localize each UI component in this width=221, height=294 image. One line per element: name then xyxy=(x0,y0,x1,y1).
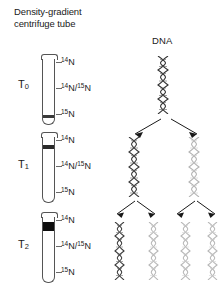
time-label-t1: T1 xyxy=(18,158,29,171)
dna-helix-t2-3 xyxy=(178,222,193,280)
time-label-t2: T2 xyxy=(18,238,29,251)
label-light-t2: 14N xyxy=(61,214,75,225)
replication-arrow-t1-b xyxy=(136,200,160,220)
n-glyph: N xyxy=(68,57,75,67)
diagram-canvas: Density-gradient centrifuge tube DNA T0 … xyxy=(0,0,221,294)
tube-body xyxy=(42,59,55,119)
dna-helix-t0-1 xyxy=(155,56,171,114)
n-slash: N/ xyxy=(68,241,77,251)
label-hybrid-t0: 14N/15N xyxy=(61,82,91,93)
time-label-t0: T0 xyxy=(18,78,29,91)
n-slash: N/ xyxy=(68,83,77,93)
dna-helix-t2-1 xyxy=(112,222,127,280)
label-hybrid-t2: 14N/15N xyxy=(61,240,91,251)
label-light-t1: 14N xyxy=(61,134,75,145)
dna-band-light xyxy=(43,222,54,231)
tube-foot xyxy=(42,196,55,203)
tube-foot xyxy=(42,118,55,125)
replication-arrow-t1-c xyxy=(172,200,196,220)
dna-helix-t1-1 xyxy=(126,137,142,197)
label-hybrid-t1: 14N/15N xyxy=(61,160,91,171)
tube-foot xyxy=(42,276,55,283)
time-label-t2-sub: 2 xyxy=(25,242,29,251)
label-heavy-t2: 15N xyxy=(61,266,75,277)
dna-band-hybrid xyxy=(43,145,54,149)
dna-heading: DNA xyxy=(152,35,173,46)
tube-t1 xyxy=(41,132,58,204)
replication-arrow-t1-a xyxy=(112,200,136,220)
n-glyph: N xyxy=(84,83,91,93)
n-slash: N/ xyxy=(68,161,77,171)
n-glyph: N xyxy=(68,135,75,145)
n-glyph: N xyxy=(68,187,75,197)
time-label-t1-sub: 1 xyxy=(25,162,29,171)
centrifuge-tube-heading: Density-gradient centrifuge tube xyxy=(14,6,82,29)
time-label-t0-text: T xyxy=(18,78,25,90)
n-glyph: N xyxy=(68,215,75,225)
n-glyph: N xyxy=(84,241,91,251)
label-heavy-t1: 15N xyxy=(61,186,75,197)
dna-band-heavy xyxy=(43,115,54,118)
label-light-t0: 14N xyxy=(61,56,75,67)
replication-arrow-t1-d xyxy=(196,200,220,220)
n-glyph: N xyxy=(84,161,91,171)
tube-t2 xyxy=(41,212,58,284)
dna-helix-t1-2 xyxy=(186,137,202,197)
time-label-t1-text: T xyxy=(18,158,25,170)
time-label-t0-sub: 0 xyxy=(25,82,29,91)
dna-helix-t2-2 xyxy=(146,222,161,280)
label-heavy-t0: 15N xyxy=(61,108,75,119)
n-glyph: N xyxy=(68,109,75,119)
dna-helix-t2-4 xyxy=(205,222,220,280)
tube-t0 xyxy=(41,54,58,126)
time-label-t2-text: T xyxy=(18,238,25,250)
n-glyph: N xyxy=(68,267,75,277)
